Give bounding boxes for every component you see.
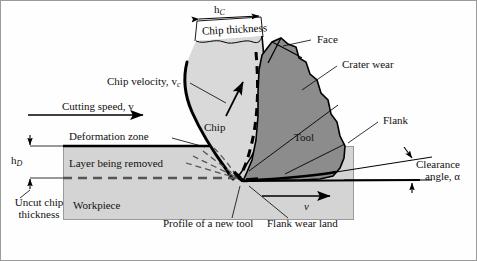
flank-wear-land-mark xyxy=(246,179,258,180)
profile-new-tool-label: Profile of a new tool xyxy=(163,217,253,229)
chip-thickness-symbol: hC xyxy=(214,3,225,18)
workpiece-label: Workpiece xyxy=(73,199,120,211)
face-label: Face xyxy=(317,33,338,45)
clearance-angle-label: Clearance angle, α xyxy=(416,158,460,183)
figure-canvas: hC Chip thickness Chip velocity, vc Cutt… xyxy=(0,0,477,261)
layer-being-removed-label: Layer being removed xyxy=(69,157,163,169)
tool-label: Tool xyxy=(294,131,314,143)
flank-leader xyxy=(348,122,378,143)
uncut-thickness-dimension xyxy=(20,135,63,198)
deformation-zone-label: Deformation zone xyxy=(69,130,149,142)
cutting-speed-label: Cutting speed, v xyxy=(62,100,134,112)
uncut-chip-thickness-label: Uncut chip thickness xyxy=(4,196,74,221)
flank-wear-land-label: Flank wear land xyxy=(267,217,338,229)
uncut-thickness-symbol: hD xyxy=(11,154,22,169)
chip-label: Chip xyxy=(204,121,225,133)
flank-label: Flank xyxy=(383,114,408,126)
crater-wear-label: Crater wear xyxy=(342,58,394,70)
workpiece-speed-symbol: v xyxy=(304,200,309,212)
chip-velocity-label: Chip velocity, vc xyxy=(107,75,180,90)
